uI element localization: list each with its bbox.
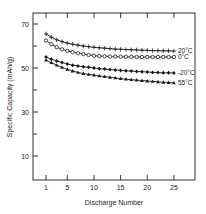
- diamond-marker: [145, 70, 149, 74]
- plus-marker: [97, 46, 101, 50]
- plus-marker: [156, 48, 160, 52]
- diamond-marker: [60, 61, 64, 65]
- plus-marker: [87, 44, 91, 48]
- diamond-marker: [98, 67, 102, 71]
- inline-legend: 20°C0°C-20°C55°C: [178, 47, 195, 86]
- plus-marker: [167, 49, 171, 53]
- diamond-marker: [135, 70, 139, 74]
- diamond-marker: [66, 62, 70, 66]
- plus-marker: [129, 48, 133, 52]
- circle-marker: [108, 55, 111, 58]
- circle-marker: [76, 52, 79, 55]
- diamond-marker: [71, 63, 75, 67]
- y-tick-label: 10: [21, 153, 29, 160]
- circle-marker: [151, 55, 154, 58]
- circle-marker: [172, 55, 175, 58]
- circle-marker: [50, 43, 53, 46]
- circle-marker: [135, 55, 138, 58]
- plus-marker: [145, 48, 149, 52]
- circle-marker: [162, 55, 165, 58]
- circle-marker: [87, 53, 90, 56]
- diamond-marker: [119, 68, 123, 72]
- circle-marker: [44, 39, 47, 42]
- plus-marker: [49, 35, 53, 39]
- x-tick-label: 25: [170, 184, 178, 191]
- diamond-marker: [140, 70, 144, 74]
- plus-marker: [161, 49, 165, 53]
- diamond-marker: [113, 68, 117, 72]
- circle-marker: [82, 52, 85, 55]
- diamond-marker: [167, 71, 171, 75]
- circle-marker: [103, 55, 106, 58]
- y-tick-label: 70: [21, 21, 29, 28]
- plus-marker: [151, 48, 155, 52]
- plus-marker: [65, 41, 69, 45]
- legend-label: 55°C: [178, 79, 193, 86]
- capacity-chart: 151015202510305070 20°C0°C-20°C55°C Disc…: [0, 0, 206, 214]
- diamond-marker: [103, 67, 107, 71]
- diamond-marker: [124, 69, 128, 73]
- circle-marker: [140, 55, 143, 58]
- circle-marker: [71, 50, 74, 53]
- x-tick-label: 15: [117, 184, 125, 191]
- diamond-marker: [50, 57, 54, 61]
- diamond-marker: [92, 66, 96, 70]
- plus-marker: [60, 39, 64, 43]
- legend-label: -20°C: [178, 69, 195, 76]
- circle-marker: [167, 55, 170, 58]
- x-axis-title: Discharge Number: [85, 199, 144, 207]
- plus-marker: [119, 47, 123, 51]
- plus-marker: [108, 46, 112, 50]
- plus-marker: [44, 32, 48, 36]
- plus-marker: [172, 49, 176, 53]
- plus-marker: [92, 45, 96, 49]
- plot-frame: [33, 13, 195, 180]
- triangle-marker: [44, 58, 48, 61]
- plus-marker: [124, 47, 128, 51]
- plus-marker: [135, 48, 139, 52]
- x-tick-label: 20: [143, 184, 151, 191]
- x-tick-label: 5: [65, 184, 69, 191]
- y-tick-label: 30: [21, 109, 29, 116]
- plot-border: [33, 13, 195, 180]
- diamond-marker: [82, 65, 86, 69]
- circle-marker: [92, 54, 95, 57]
- circle-marker: [114, 55, 117, 58]
- circle-marker: [66, 49, 69, 52]
- diamond-marker: [55, 59, 59, 63]
- y-tick-label: 50: [21, 65, 29, 72]
- plus-marker: [71, 42, 75, 46]
- x-tick-label: 10: [90, 184, 98, 191]
- diamond-marker: [108, 68, 112, 72]
- diamond-marker: [76, 64, 80, 68]
- circle-marker: [156, 55, 159, 58]
- legend-label: 0°C: [178, 53, 189, 60]
- diamond-marker: [161, 71, 165, 75]
- plus-marker: [140, 48, 144, 52]
- plus-marker: [113, 47, 117, 51]
- circle-marker: [98, 54, 101, 57]
- diamond-marker: [156, 71, 160, 75]
- circle-marker: [119, 55, 122, 58]
- diamond-marker: [87, 65, 91, 69]
- circle-marker: [124, 55, 127, 58]
- y-axis-title: Specific Capacity (mAh/g): [6, 57, 14, 138]
- plus-marker: [81, 44, 85, 48]
- circle-marker: [60, 48, 63, 51]
- plus-marker: [55, 38, 59, 42]
- plus-marker: [103, 46, 107, 50]
- data-series: [44, 32, 176, 85]
- diamond-marker: [129, 69, 133, 73]
- plus-marker: [76, 43, 80, 47]
- circle-marker: [146, 55, 149, 58]
- x-tick-label: 1: [44, 184, 48, 191]
- diamond-marker: [151, 70, 155, 74]
- diamond-marker: [172, 71, 176, 75]
- circle-marker: [55, 45, 58, 48]
- circle-marker: [130, 55, 133, 58]
